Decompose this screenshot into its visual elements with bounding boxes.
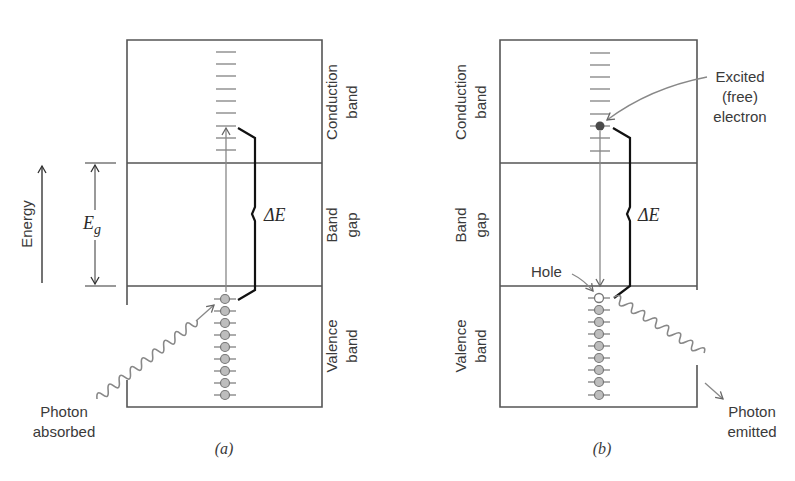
photon-emitted-label-1: Photon <box>728 403 776 420</box>
delta-e-label: ΔE <box>637 205 660 225</box>
excited-electron <box>596 122 605 131</box>
delta-e-brace <box>613 128 630 298</box>
excited-label-2: (free) <box>722 88 758 105</box>
delta-e-label: ΔE <box>263 205 286 225</box>
photon-absorb-arrow-icon <box>196 305 214 321</box>
label-conduction-band: band <box>472 85 489 118</box>
band-gap-dimension: Eg <box>82 163 116 286</box>
photon-absorbed-label-2: absorbed <box>33 423 96 440</box>
eg-symbol: Eg <box>82 213 101 237</box>
label-conduction-band: band <box>343 85 360 118</box>
excited-label-3: electron <box>713 108 766 125</box>
valence-atoms <box>214 295 236 400</box>
photon-absorbed-label-1: Photon <box>40 403 88 420</box>
panel-b-frame <box>500 40 697 407</box>
energy-axis: Energy <box>18 166 42 283</box>
photon-emitted-label-2: emitted <box>727 423 776 440</box>
valence-atoms <box>588 294 610 400</box>
label-valence-band: band <box>472 329 489 362</box>
hole <box>595 294 604 303</box>
label-conduction: Conduction <box>323 64 340 140</box>
photon-wave-icon <box>87 318 208 401</box>
label-gap: gap <box>472 212 489 237</box>
label-valence-band: band <box>343 329 360 362</box>
excited-label-1: Excited <box>715 68 764 85</box>
energy-label: Energy <box>18 200 35 248</box>
hole-pointer-arrow-icon <box>572 274 593 291</box>
label-valence: Valence <box>452 319 469 372</box>
label-band: Band <box>452 207 469 242</box>
panel-a: ΔE Conduction band Band gap Valence band… <box>33 40 360 458</box>
label-valence: Valence <box>323 319 340 372</box>
photon-wave-icon <box>612 283 706 367</box>
label-gap: gap <box>343 212 360 237</box>
label-band: Band <box>323 207 340 242</box>
caption-b: (b) <box>593 440 612 458</box>
panel-b: ΔE Excited (free) electron Hole Conducti… <box>452 40 777 458</box>
label-conduction: Conduction <box>452 64 469 140</box>
caption-a: (a) <box>215 440 234 458</box>
photon-emit-arrow-icon <box>705 383 723 399</box>
electron-pointer-arrow-icon <box>607 77 707 120</box>
delta-e-brace <box>238 128 255 300</box>
band-gap-diagram: Energy Eg <box>0 0 795 481</box>
hole-label: Hole <box>531 263 562 280</box>
